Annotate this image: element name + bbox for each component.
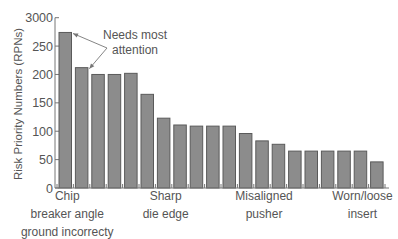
y-axis-title: Risk Priority Numbers (RPNs) [12, 28, 24, 180]
bar [256, 141, 268, 188]
rpn-bar-chart: 0501001502002503000 Chipbreaker anglegro… [0, 0, 398, 239]
annotation-text: attention [112, 43, 158, 57]
annotation-arrow [73, 33, 107, 48]
annotations: Needs mostattention [73, 28, 168, 69]
category-label: breaker angle [31, 207, 105, 221]
bar [190, 126, 203, 188]
annotation-text: Needs most [103, 28, 168, 42]
bar [207, 126, 220, 188]
bar [157, 118, 170, 188]
category-label: Chip [55, 189, 80, 203]
category-label: die edge [143, 207, 189, 221]
category-label: Sharp [150, 189, 182, 203]
bar [289, 151, 302, 188]
category-label: Misaligned [235, 189, 292, 203]
bar [338, 151, 351, 188]
y-tick-label: 250 [32, 40, 53, 54]
bar [223, 126, 236, 188]
y-tick-label: 0 [46, 182, 53, 196]
bar [141, 94, 154, 188]
category-label: ground incorrecty [21, 225, 114, 239]
bar [174, 125, 187, 188]
bar [92, 74, 105, 188]
bar [321, 151, 334, 188]
bar [371, 162, 384, 188]
y-axis: 0501001502002503000 [25, 11, 59, 195]
bars [59, 32, 383, 188]
bar [108, 74, 121, 188]
category-label: pusher [246, 207, 283, 221]
bar [75, 68, 88, 188]
category-labels: Chipbreaker angleground incorrectySharpd… [21, 189, 393, 239]
bar [272, 144, 285, 188]
y-tick-label: 100 [32, 125, 53, 139]
bar [59, 32, 72, 188]
y-tick-label: 50 [39, 153, 53, 167]
y-tick-label: 3000 [25, 11, 53, 25]
bar [354, 151, 367, 188]
bar [305, 151, 318, 188]
y-tick-label: 200 [32, 68, 53, 82]
bar [125, 73, 138, 188]
bar [239, 134, 252, 188]
y-tick-label: 150 [32, 96, 53, 110]
category-label: Worn/loose [332, 189, 393, 203]
category-label: insert [348, 207, 378, 221]
